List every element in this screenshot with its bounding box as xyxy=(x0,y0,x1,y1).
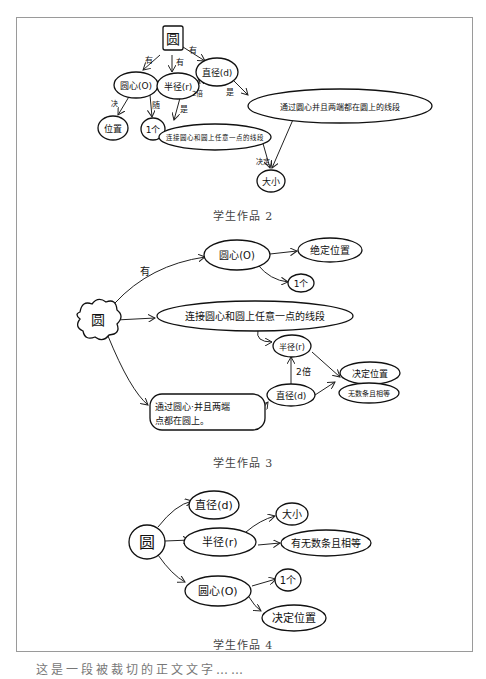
edge-radius-size xyxy=(246,516,275,532)
edge-center-one xyxy=(258,265,288,282)
node-one-label: 1个 xyxy=(146,125,161,135)
mind-map-work-2: 圆 圆心(O) 半径(r) 直径(d) 位置 1个 连接圆心和圆上任意一点的线段… xyxy=(0,0,486,200)
edge-label-times2: 2倍 xyxy=(192,89,203,98)
mind-map-work-4: 圆 直径(d) 半径(r) 圆心(O) 大小 有无数条且相等 1个 决定位置 xyxy=(0,475,486,635)
node-diameter-def-label-2: 点都在圆上。 xyxy=(155,415,209,426)
caption-work-4: 学生作品 4 xyxy=(0,636,486,652)
edge-radius-infinite xyxy=(258,543,280,545)
node-diameter-label: 直径(d) xyxy=(276,390,307,401)
edge-center-decide xyxy=(270,251,297,254)
caption-work-2: 学生作品 2 xyxy=(0,207,486,223)
node-center-label: 圆心(O) xyxy=(120,81,152,91)
node-one-label: 1个 xyxy=(280,575,296,586)
cropped-body-text: 这是一段被裁切的正文文字…… xyxy=(36,660,466,679)
node-center-label: 圆心(O) xyxy=(198,585,237,598)
node-diameter-def-label: 通过圆心并且两端都在圆上的线段 xyxy=(280,102,400,112)
node-decide-position-label: 绝定位置 xyxy=(310,244,350,256)
edge-label-times2: 2倍 xyxy=(296,366,311,377)
node-one-label: 1个 xyxy=(294,279,309,289)
node-radius-def-label: 连接圆心和圆上任意一点的线段 xyxy=(185,310,325,322)
edge-diameter-result xyxy=(315,382,335,395)
edge-center-position xyxy=(118,95,130,115)
root-label: 圆 xyxy=(139,533,155,552)
node-diameter-label: 直径(d) xyxy=(195,498,233,512)
edge-label-decides: 决 xyxy=(111,99,118,108)
edge-root-diameter xyxy=(158,501,192,527)
node-size-label: 大小 xyxy=(282,508,302,520)
node-center-label: 圆心(O) xyxy=(219,250,255,261)
node-result-infinite-label: 无数条且相等 xyxy=(348,389,390,398)
edge-center-one xyxy=(252,579,276,586)
root-label: 圆 xyxy=(91,312,105,328)
edge-center-decide xyxy=(249,597,261,611)
node-radius-def-label: 连接圆心和圆上任意一点的线段 xyxy=(166,133,264,142)
node-decide-position-label: 决定位置 xyxy=(272,611,316,625)
node-result-decide-position-label: 决定位置 xyxy=(352,368,388,379)
edge-root-center xyxy=(115,257,205,303)
caption-work-3: 学生作品 3 xyxy=(0,454,486,470)
edge-diameter-def-size xyxy=(272,115,295,168)
edge-root-diameter-def xyxy=(108,336,148,405)
edge-label-has-2: 有 xyxy=(176,57,184,67)
mind-map-work-3: 圆 圆心(O) 绝定位置 1个 连接圆心和圆上任意一点的线段 半径(r) 直径(… xyxy=(0,230,486,445)
edge-root-radius-def xyxy=(116,318,155,320)
edge-label-is-2: 是 xyxy=(226,88,234,97)
node-radius-label: 半径(r) xyxy=(279,342,305,352)
node-diameter-def-label-1: 通过圆心·并且两端 xyxy=(155,401,230,412)
edge-label-has-3: 有 xyxy=(189,45,197,55)
node-radius-label: 半径(r) xyxy=(202,535,237,549)
edge-root-center xyxy=(158,555,185,582)
edge-diameter-def xyxy=(233,80,248,95)
edge-label-decides-size: 决定 xyxy=(256,157,270,166)
edge-label-is-1: 是 xyxy=(180,105,188,114)
node-radius-label: 半径(r) xyxy=(164,81,193,92)
node-position-label: 位置 xyxy=(104,123,122,134)
edge-label-with: 随 xyxy=(152,100,160,110)
node-size-label: 大小 xyxy=(262,176,280,187)
node-infinite-label: 有无数条且相等 xyxy=(291,537,361,549)
edge-radius-def-radius xyxy=(258,330,272,342)
root-label: 圆 xyxy=(166,31,180,47)
edge-label-has: 有 xyxy=(140,265,150,277)
edge-label-has-1: 有 xyxy=(145,55,153,65)
node-diameter-label: 直径(d) xyxy=(202,67,233,78)
edge-radius-result xyxy=(312,352,340,377)
